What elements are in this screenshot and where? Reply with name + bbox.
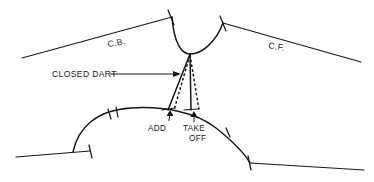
label-add: ADD	[148, 124, 166, 133]
armhole-tick-left-2-icon	[116, 107, 118, 117]
label-center-back: C.B.	[107, 36, 126, 49]
take-off-arrow-icon	[191, 111, 198, 122]
dart-leg-left-solid	[168, 54, 190, 110]
label-take-off-line2: OFF	[189, 134, 206, 143]
label-center-front: C.F.	[268, 40, 286, 53]
center-back-shoulder-line	[22, 17, 172, 58]
bottom-line-left	[16, 151, 90, 157]
center-front-shoulder-line	[223, 23, 361, 62]
pattern-drafting-illustration: C.B. C.F. CLOSED DART ADD TAKE OFF	[0, 0, 374, 182]
label-take-off-line1: TAKE	[183, 124, 205, 133]
add-arrow-icon	[167, 110, 174, 121]
dart-leg-right-solid	[190, 54, 191, 110]
armhole-curve	[73, 108, 250, 163]
armhole-tick-right-1-icon	[226, 128, 230, 137]
dart-base-cross-right-icon	[184, 109, 198, 110]
diagram-canvas: C.B. C.F. CLOSED DART ADD TAKE OFF	[0, 0, 374, 182]
label-closed-dart: CLOSED DART	[52, 69, 117, 79]
closed-dart-arrowhead-icon	[173, 71, 181, 77]
neckline-curve	[172, 17, 223, 54]
dart-leg-left-dashed	[174, 55, 190, 110]
armhole-tick-left-1-icon	[108, 109, 111, 119]
bottom-line-right	[250, 163, 364, 170]
